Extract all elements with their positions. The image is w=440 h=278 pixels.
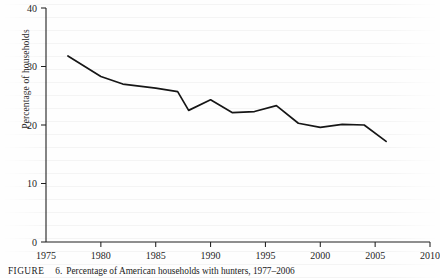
y-tick-label: 20: [27, 120, 37, 131]
data-series-group: [68, 56, 386, 141]
x-tick-label: 1995: [255, 250, 275, 261]
figure-caption-number: 6.: [55, 266, 62, 276]
y-axis-tick-labels: 010203040: [27, 3, 37, 248]
figure-container: Percentage of households 010203040 19751…: [0, 0, 440, 278]
x-tick-label: 2005: [365, 250, 385, 261]
y-axis-group: 010203040: [27, 3, 46, 248]
y-tick-label: 10: [27, 178, 37, 189]
x-tick-label: 1980: [91, 250, 111, 261]
y-tick-label: 0: [32, 237, 37, 248]
line-chart-plot: 010203040 197519801985199019952000200520…: [0, 0, 440, 266]
x-tick-label: 1975: [36, 250, 56, 261]
x-tick-label: 1990: [201, 250, 221, 261]
x-tick-label: 1985: [146, 250, 166, 261]
x-axis-tick-labels: 19751980198519901995200020052010: [36, 250, 440, 261]
x-tick-label: 2000: [310, 250, 330, 261]
series-line-households-with-hunters: [68, 56, 386, 141]
y-tick-label: 30: [27, 61, 37, 72]
y-axis-ticks: [41, 8, 46, 242]
figure-caption-kicker: FIGURE: [8, 266, 44, 276]
x-axis-group: 19751980198519901995200020052010: [36, 242, 440, 261]
y-tick-label: 40: [27, 3, 37, 14]
figure-caption-text: Percentage of American households with h…: [66, 266, 295, 276]
x-axis-ticks: [101, 242, 430, 247]
figure-caption: FIGURE6.Percentage of American household…: [8, 266, 440, 276]
x-tick-label: 2010: [420, 250, 440, 261]
